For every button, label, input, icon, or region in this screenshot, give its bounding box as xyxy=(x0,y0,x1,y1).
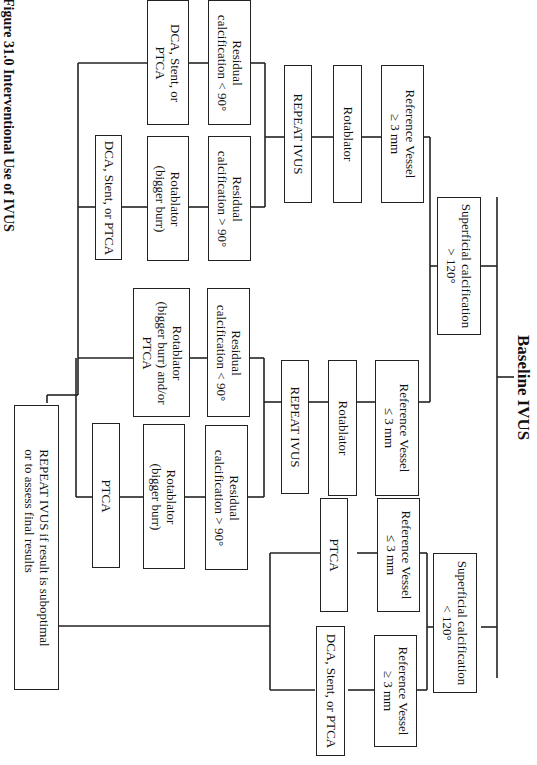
node-final-repeat-ivus: REPEAT IVUS if result is suboptimalor to… xyxy=(14,405,59,690)
node-label: Superficial calcification xyxy=(459,204,474,329)
node-label: PTCA xyxy=(327,538,342,571)
node-reference-vessel-le-3mm-a: Reference Vessel≤ 3 mm xyxy=(375,360,419,496)
node-label: or to assess final results xyxy=(22,449,37,646)
node-label: > 120° xyxy=(444,204,459,329)
node-superficial-calcification-lt-120: Superficial calcification< 120° xyxy=(433,553,477,693)
node-label: ≤ 3 mm xyxy=(382,384,397,473)
node-ptca-c: PTCA xyxy=(320,498,348,612)
node-label: Superficial calcification xyxy=(455,561,470,686)
node-label: Residual xyxy=(227,449,242,545)
node-rotablator-bigger-burr-and-or-ptca: Rotablator(bigger burr) and/orPTCA xyxy=(133,288,190,417)
node-label: Reference Vessel xyxy=(397,384,412,473)
node-label: ≤ 3 mm xyxy=(384,511,399,600)
node-label: DCA, Stent, or PTCA xyxy=(101,140,116,254)
node-label: REPEAT IVUS xyxy=(288,386,303,467)
node-label: < 120° xyxy=(440,561,455,686)
node-label: PTCA xyxy=(139,301,154,404)
node-label: Reference Vessel xyxy=(396,647,411,736)
node-label: Reference Vessel xyxy=(403,90,418,179)
node-label: Rotablator xyxy=(340,107,355,162)
node-label: calcification < 90° xyxy=(215,14,230,110)
node-label: REPEAT IVUS if result is suboptimal xyxy=(37,449,52,646)
node-label: calcification > 90° xyxy=(212,449,227,545)
node-dca-stent-ptca-b: DCA, Stent, or PTCA xyxy=(95,135,122,260)
node-residual-calcification-gt-90-a: Residualcalcification > 90° xyxy=(208,136,251,261)
node-repeat-ivus-a: REPEAT IVUS xyxy=(284,65,312,203)
node-label: calcification > 90° xyxy=(215,150,230,246)
node-label: Residual xyxy=(230,150,245,246)
node-reference-vessel-le-3mm-b: Reference Vessel≤ 3 mm xyxy=(377,498,420,612)
node-repeat-ivus-b: REPEAT IVUS xyxy=(281,360,309,494)
node-label: Rotablator xyxy=(168,165,183,232)
node-ptca-b: PTCA xyxy=(92,423,120,568)
node-rotablator-bigger-burr-a: Rotablator(bigger burr) xyxy=(147,136,189,261)
node-residual-calcification-lt-90-a: Residualcalcification < 90° xyxy=(208,0,251,125)
node-label: ≥ 3 mm xyxy=(381,647,396,736)
node-dca-stent-ptca-a: DCA, Stent, orPTCA xyxy=(147,0,189,125)
node-rotablator-bigger-burr-b: Rotablator(bigger burr) xyxy=(143,424,185,569)
diagram-title: Baseline IVUS xyxy=(513,335,533,440)
node-label: Reference Vessel xyxy=(399,511,414,600)
node-label: DCA, Stent, or xyxy=(168,24,183,102)
node-reference-vessel-ge-3mm-a: Reference Vessel≥ 3 mm xyxy=(381,65,424,203)
node-label: PTCA xyxy=(153,24,168,102)
figure-caption: Figure 31.0 Interventional Use of IVUS xyxy=(0,0,16,232)
node-residual-calcification-lt-90-b: Residualcalcification < 90° xyxy=(207,288,250,417)
node-dca-stent-ptca-c: DCA, Stent, or PTCA xyxy=(316,626,345,756)
node-label: ≥ 3 mm xyxy=(388,90,403,179)
node-label: Residual xyxy=(229,304,244,400)
node-label: Residual xyxy=(230,14,245,110)
node-reference-vessel-ge-3mm-b: Reference Vessel≥ 3 mm xyxy=(374,635,417,747)
node-residual-calcification-gt-90-b: Residualcalcification > 90° xyxy=(205,425,248,570)
node-label: calcification < 90° xyxy=(214,304,229,400)
node-label: REPEAT IVUS xyxy=(291,93,306,174)
node-label: Rotablator xyxy=(169,301,184,404)
node-superficial-calcification-gt-120: Superficial calcification> 120° xyxy=(437,197,481,335)
node-label: Rotablator xyxy=(164,463,179,530)
node-label: PTCA xyxy=(99,479,114,512)
node-rotablator-b: Rotablator xyxy=(328,360,357,496)
node-rotablator-a: Rotablator xyxy=(333,65,362,203)
node-label: (bigger burr) xyxy=(153,165,168,232)
node-label: Rotablator xyxy=(335,401,350,456)
node-label: (bigger burr) and/or xyxy=(154,301,169,404)
node-label: (bigger burr) xyxy=(149,463,164,530)
node-label: DCA, Stent, or PTCA xyxy=(323,634,338,748)
